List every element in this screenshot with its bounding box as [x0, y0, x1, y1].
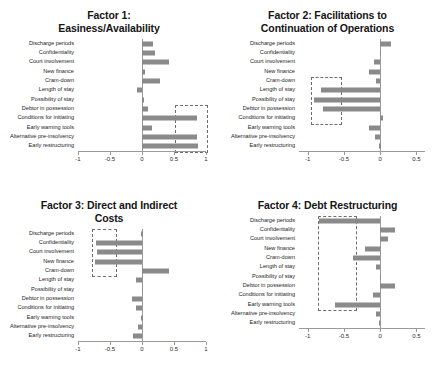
chart-title-factor-2: Factor 2: Facilitations to Continuation …	[218, 0, 437, 35]
axis-tick-label: -1	[75, 156, 80, 162]
chart-panel-factor-4: Factor 4: Debt Restructuring Discharge p…	[218, 190, 437, 379]
highlight-box	[318, 216, 357, 310]
axis-tick	[206, 152, 207, 155]
bar	[142, 125, 152, 130]
axis-tick	[110, 152, 111, 155]
chart-panel-factor-2: Factor 2: Facilitations to Continuation …	[218, 0, 437, 190]
axis-tick-label: -1	[305, 333, 310, 339]
plot-area-factor-1: Discharge periodsConfidentialityCourt in…	[0, 39, 218, 167]
bar	[380, 41, 391, 46]
axis-tick-label: 0	[378, 333, 381, 339]
axis-tick	[110, 342, 111, 345]
bar	[133, 334, 142, 339]
bar	[369, 69, 381, 74]
bar	[142, 79, 160, 84]
bar	[365, 246, 380, 251]
axis-baseline	[299, 151, 425, 152]
axis-tick	[308, 152, 309, 155]
chart-title-factor-4: Factor 4: Debt Restructuring	[218, 190, 437, 212]
bar	[323, 107, 380, 112]
axis-tick-label: -0.5	[105, 156, 115, 162]
value-axis-area: -1-0.500.5	[218, 39, 437, 167]
axis-tick	[78, 342, 79, 345]
axis-tick-label: 0.5	[412, 156, 420, 162]
bar	[142, 287, 143, 292]
bar	[321, 88, 380, 93]
axis-tick-label: 0	[140, 156, 143, 162]
bar	[141, 315, 142, 320]
axis-tick	[344, 152, 345, 155]
bar	[136, 278, 142, 283]
axis-tick-label: 1	[204, 156, 207, 162]
bar	[374, 60, 380, 65]
axis-tick	[344, 329, 345, 332]
bar	[138, 325, 142, 330]
bar	[380, 116, 383, 121]
bar	[142, 69, 145, 74]
axis-tick	[174, 152, 175, 155]
value-axis-area: -1-0.500.51	[0, 39, 218, 167]
bar	[142, 107, 148, 112]
chart-panel-factor-3: Factor 3: Direct and Indirect Costs Disc…	[0, 190, 218, 379]
plot-area-factor-4: Discharge periodsConfidentialityCourt in…	[218, 216, 437, 344]
axis-tick-label: 1	[204, 346, 207, 352]
factor-charts-figure: Factor 1: Easiness/Availability Discharg…	[0, 0, 437, 379]
axis-tick-label: -0.5	[105, 346, 115, 352]
bar	[376, 312, 380, 317]
zero-line	[380, 216, 381, 328]
axis-tick	[380, 329, 381, 332]
zero-line	[380, 39, 381, 151]
axis-tick-label: 0.5	[412, 333, 420, 339]
bar	[314, 97, 380, 102]
bar	[380, 284, 394, 289]
bar	[97, 250, 142, 255]
bar	[376, 79, 380, 84]
axis-tick	[142, 342, 143, 345]
axis-tick-label: -0.5	[339, 156, 349, 162]
axis-tick	[142, 152, 143, 155]
bar	[95, 259, 142, 264]
axis-tick-label: -1	[305, 156, 310, 162]
axis-tick-label: -1	[75, 346, 80, 352]
axis-tick	[308, 329, 309, 332]
bar	[142, 97, 144, 102]
zero-line	[142, 229, 143, 341]
plot-area-factor-2: Discharge periodsConfidentialityCourt in…	[218, 39, 437, 167]
axis-tick	[206, 342, 207, 345]
bar	[142, 51, 155, 56]
chart-title-factor-3: Factor 3: Direct and Indirect Costs	[0, 190, 218, 225]
bar	[136, 306, 142, 311]
axis-tick	[416, 329, 417, 332]
bar	[96, 241, 142, 246]
bar	[137, 88, 142, 93]
bar	[376, 265, 380, 270]
bar	[142, 135, 197, 140]
plot-area-factor-3: Discharge periodsConfidentialityCourt in…	[0, 229, 218, 357]
chart-title-factor-1: Factor 1: Easiness/Availability	[0, 0, 218, 35]
bar	[380, 237, 388, 242]
bar	[142, 116, 197, 121]
bar	[353, 256, 380, 261]
bar	[375, 135, 380, 140]
axis-tick	[174, 342, 175, 345]
bar	[142, 41, 153, 46]
bar	[380, 51, 381, 56]
axis-tick-label: -0.5	[339, 333, 349, 339]
bar	[142, 269, 169, 274]
bar	[379, 144, 380, 149]
bar	[319, 218, 380, 223]
axis-tick	[78, 152, 79, 155]
axis-tick-label: 0	[140, 346, 143, 352]
bar	[142, 60, 169, 65]
value-axis-area: -1-0.500.5	[218, 216, 437, 344]
bar	[369, 125, 381, 130]
bar	[132, 297, 142, 302]
axis-tick-label: 0	[378, 156, 381, 162]
bar	[335, 302, 380, 307]
bar	[142, 144, 198, 149]
bar	[379, 321, 380, 326]
chart-panel-factor-1: Factor 1: Easiness/Availability Discharg…	[0, 0, 218, 190]
axis-tick	[380, 152, 381, 155]
bar	[380, 228, 394, 233]
value-axis-area: -1-0.500.51	[0, 229, 218, 357]
